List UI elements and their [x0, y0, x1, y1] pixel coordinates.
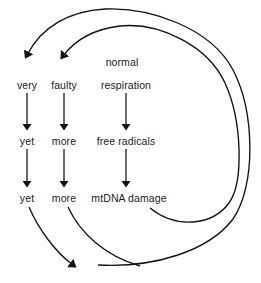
node-faulty: faulty — [51, 79, 77, 91]
node-more-second: more — [52, 192, 76, 204]
yet-continuation-arrow — [29, 207, 73, 265]
node-very: very — [17, 79, 37, 91]
node-more-first: more — [52, 135, 76, 147]
diagram-canvas: normal very faulty respiration yet more … — [0, 0, 261, 283]
more-continuation-curve — [68, 207, 140, 266]
node-mtdna-damage: mtDNA damage — [91, 192, 166, 204]
node-normal: normal — [106, 56, 139, 68]
node-yet-second: yet — [20, 192, 34, 204]
node-free-radicals: free radicals — [97, 135, 156, 147]
node-yet-first: yet — [20, 135, 34, 147]
node-respiration: respiration — [101, 79, 151, 91]
